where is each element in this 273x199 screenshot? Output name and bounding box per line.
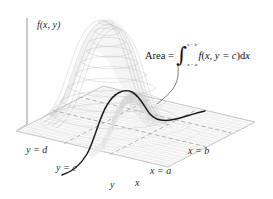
integral-sign: ∫ [176,46,187,62]
label-x-equals-a: x = a [150,166,171,176]
integrand-arguments: x, y = c [205,50,237,61]
area-word: Area [145,50,165,61]
integral-limits: x = b x = a [187,45,197,65]
label-x-equals-b: x = b [188,146,209,156]
label-y-equals-c: y = c [56,163,77,173]
integrand: f(x, y = c)dx [199,50,250,61]
axis-label-x: x [135,178,139,188]
area-integral-annotation: Area = ∫ x = b x = a f(x, y = c)dx [145,45,250,65]
label-y-equals-d: y = d [26,145,47,155]
integral-upper-limit: x = b [187,43,197,48]
axis-label-y: y [110,180,114,190]
integral-expression: ∫ x = b x = a [176,45,197,65]
equals-sign: = [168,50,174,61]
differential-variable: x [245,50,250,61]
integral-lower-limit: x = a [187,63,197,68]
vertical-axis-label: f(x, y) [37,20,60,30]
